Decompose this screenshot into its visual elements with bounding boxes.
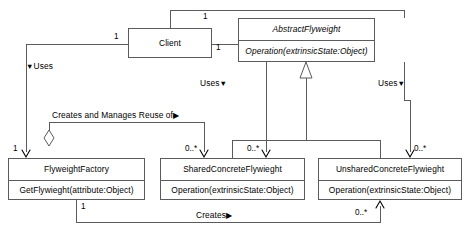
generalization-triangle-icon	[300, 62, 312, 78]
edge-abstract-right-trunk	[404, 62, 410, 152]
multiplicity-factory-left: 1	[13, 145, 18, 153]
class-name-flyweight-factory: FlyweightFactory	[9, 159, 144, 180]
label-creates-text: Creates	[196, 210, 226, 220]
edge-creates-manages	[49, 122, 204, 152]
label-uses-right-text: Uses	[378, 78, 397, 88]
edge-generalize-unshared	[306, 140, 380, 158]
label-creates: Creates▶	[196, 211, 232, 220]
multiplicity-client-top: 1	[203, 13, 208, 21]
triangle-down-icon-left: ▼	[26, 62, 34, 71]
triangle-right-icon-creates: ▶	[226, 211, 232, 220]
class-box-shared-concrete-flyweight[interactable]: SharedConcreteFlywieght Operation(extrin…	[160, 158, 305, 200]
multiplicity-shared-left: 0..*	[185, 145, 197, 153]
class-operation-flyweight-factory: GetFlywieght(attribute:Object)	[9, 180, 144, 199]
label-uses-center-text: Uses	[200, 78, 219, 88]
edge-generalize-shared	[232, 78, 306, 158]
label-uses-right: Uses▼	[378, 79, 405, 88]
multiplicity-unshared-right: 0..*	[414, 145, 426, 153]
class-operation-abstract-flyweight: Operation(extrinsicState:Object)	[239, 40, 374, 61]
multiplicity-factory-bottom: 1	[81, 203, 86, 211]
class-box-flyweight-factory[interactable]: FlyweightFactory GetFlywieght(attribute:…	[8, 158, 145, 200]
class-name-client: Client	[129, 29, 211, 57]
class-name-shared-concrete-flyweight: SharedConcreteFlywieght	[161, 159, 304, 180]
multiplicity-client-left: 1	[114, 33, 119, 41]
uml-class-diagram: Client AbstractFlyweight Operation(extri…	[0, 0, 466, 232]
label-uses-center: Uses▼	[200, 79, 227, 88]
label-uses-left: ▼Uses	[26, 62, 53, 71]
multiplicity-unshared-bottom: 0..*	[355, 209, 367, 217]
triangle-down-icon-right: ▼	[397, 79, 405, 88]
class-name-unshared-concrete-flyweight: UnsharedConcreteFlywieght	[319, 159, 461, 180]
multiplicity-shared-right: 0..*	[247, 145, 259, 153]
class-name-abstract-flyweight: AbstractFlyweight	[239, 19, 374, 40]
triangle-down-icon-center: ▼	[219, 79, 227, 88]
label-creates-and-manages-text: Creates and Manages Reuse of	[52, 110, 173, 120]
class-box-client[interactable]: Client	[128, 28, 212, 58]
class-box-abstract-flyweight[interactable]: AbstractFlyweight Operation(extrinsicSta…	[238, 18, 375, 62]
label-uses-left-text: Uses	[34, 61, 53, 71]
multiplicity-client-right: 1	[216, 44, 221, 52]
triangle-right-icon-manages: ▶	[173, 111, 179, 120]
class-operation-unshared-concrete-flyweight: Operation(extrinsicState:Object)	[319, 180, 461, 199]
class-operation-shared-concrete-flyweight: Operation(extrinsicState:Object)	[161, 180, 304, 199]
aggregation-diamond-icon	[44, 130, 54, 146]
label-creates-and-manages: Creates and Manages Reuse of▶	[52, 111, 179, 120]
class-box-unshared-concrete-flyweight[interactable]: UnsharedConcreteFlywieght Operation(extr…	[318, 158, 462, 200]
